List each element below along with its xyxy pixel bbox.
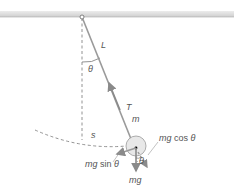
arc-length-label: s: [91, 130, 96, 140]
length-label: L: [101, 40, 106, 50]
angle-label-bottom: θ: [139, 156, 144, 166]
angle-label-top: θ: [88, 64, 93, 74]
tension-arrow: [109, 83, 120, 110]
weight-label: mg: [129, 175, 142, 185]
ceiling-bar: [0, 11, 234, 17]
pendulum-string: [82, 17, 131, 139]
pendulum-diagram: L θ T m s mg sin θ mg cos θ θ mg: [0, 0, 234, 191]
tension-label: T: [126, 102, 133, 112]
tangential-force-label: mg sin θ: [85, 159, 119, 169]
radial-force-label: mg cos θ: [159, 133, 196, 143]
pivot-point: [80, 15, 84, 19]
arc-path: [35, 130, 126, 147]
angle-arc-top: [82, 58, 100, 62]
mass-label: m: [132, 114, 140, 124]
